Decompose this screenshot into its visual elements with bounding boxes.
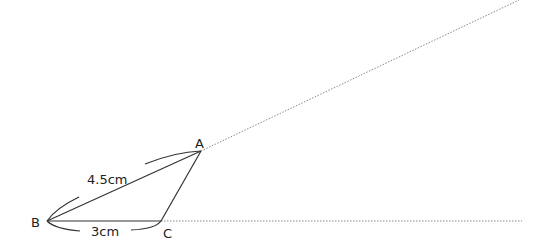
arc-ab-near-a [145,151,201,164]
point-a-label: A [195,136,204,151]
point-c-label: C [163,226,172,241]
arc-bc-near-c [131,221,161,230]
triangle-construction: A B C 4.5cm 3cm [0,0,552,251]
arc-bc-near-b [47,221,80,231]
side-ca [161,151,201,221]
ray-from-a [201,0,519,151]
diagram-canvas: A B C 4.5cm 3cm [0,0,552,251]
measure-bc-label: 3cm [91,224,119,239]
measure-ab-label: 4.5cm [87,172,128,187]
point-b-label: B [31,215,40,230]
